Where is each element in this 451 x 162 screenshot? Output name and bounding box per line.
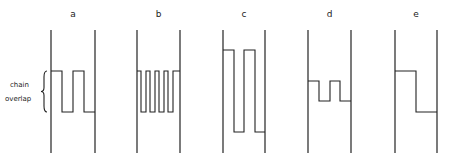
panel-label: b [156,9,162,19]
curly-brace-icon [41,71,47,112]
panels-group: abcde [51,9,437,153]
panel-a: a [51,9,95,153]
annotation-label-chain: chain [10,81,29,89]
panel-b: b [137,9,180,153]
panel-label: e [413,9,419,19]
chain-overlap-annotation: chain overlap [5,71,47,112]
chain-overlap-diagram: abcde chain overlap [0,0,451,162]
panel-label: a [70,9,76,19]
annotation-label-overlap: overlap [5,95,32,103]
chain-fold-path [137,71,180,112]
panel-label: d [327,9,333,19]
chain-fold-path [395,71,437,112]
panel-d: d [308,9,351,153]
panel-label: c [242,9,247,19]
panel-e: e [395,9,437,153]
panel-c: c [223,9,265,153]
chain-fold-path [223,50,265,132]
chain-fold-path [308,81,351,101]
chain-fold-path [51,71,95,112]
